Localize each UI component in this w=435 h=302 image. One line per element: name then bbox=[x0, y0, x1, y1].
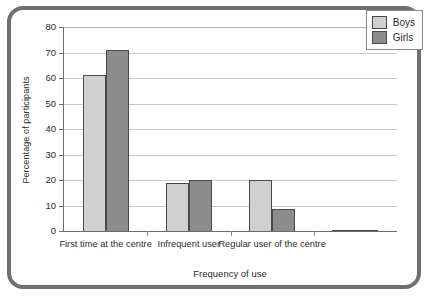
x-tick-mark bbox=[147, 231, 148, 236]
legend-item-boys: Boys bbox=[372, 15, 415, 30]
y-tick-label: 20 bbox=[45, 175, 56, 185]
chart-legend: Boys Girls bbox=[366, 10, 423, 50]
y-tick-label: 70 bbox=[45, 48, 56, 58]
legend-label-girls: Girls bbox=[393, 33, 414, 43]
y-axis-title: Percentage of participants bbox=[21, 76, 31, 183]
bar-group bbox=[314, 27, 397, 231]
legend-swatch-boys-icon bbox=[372, 16, 387, 29]
bar-group-bars bbox=[314, 27, 397, 231]
y-tick-label: 30 bbox=[45, 150, 56, 160]
x-tick-mark bbox=[231, 231, 232, 236]
bar-group-bars bbox=[231, 27, 314, 231]
bar-group-bars bbox=[147, 27, 230, 231]
y-tick-mark bbox=[59, 231, 64, 232]
bar-group: First time at the centre bbox=[64, 27, 147, 231]
bar-boys[interactable] bbox=[332, 230, 355, 232]
chart-figure: Percentage of participants Frequency of … bbox=[0, 0, 435, 302]
x-tick-label: Regular user of the centre bbox=[218, 239, 326, 251]
legend-label-boys: Boys bbox=[393, 18, 415, 28]
y-tick-label: 10 bbox=[45, 201, 56, 211]
bar-group-bars bbox=[64, 27, 147, 231]
y-tick-label: 80 bbox=[45, 22, 56, 32]
legend-item-girls: Girls bbox=[372, 30, 415, 45]
y-tick-label: 0 bbox=[51, 226, 56, 236]
bar-girls[interactable] bbox=[355, 230, 378, 232]
bar-boys[interactable] bbox=[83, 75, 106, 231]
bar-girls[interactable] bbox=[272, 209, 295, 231]
y-tick-label: 50 bbox=[45, 99, 56, 109]
x-tick-mark bbox=[314, 231, 315, 236]
y-tick-label: 60 bbox=[45, 73, 56, 83]
y-tick-label: 40 bbox=[45, 124, 56, 134]
x-axis-title: Frequency of use bbox=[63, 268, 397, 279]
bar-group: Infrequent user bbox=[147, 27, 230, 231]
bar-girls[interactable] bbox=[189, 180, 212, 231]
plot-area: 01020304050607080 First time at the cent… bbox=[63, 27, 397, 232]
bar-group: Regular user of the centre bbox=[231, 27, 314, 231]
bar-girls[interactable] bbox=[106, 50, 129, 231]
bar-boys[interactable] bbox=[166, 183, 189, 231]
legend-swatch-girls-icon bbox=[372, 31, 387, 44]
bar-boys[interactable] bbox=[249, 180, 272, 231]
